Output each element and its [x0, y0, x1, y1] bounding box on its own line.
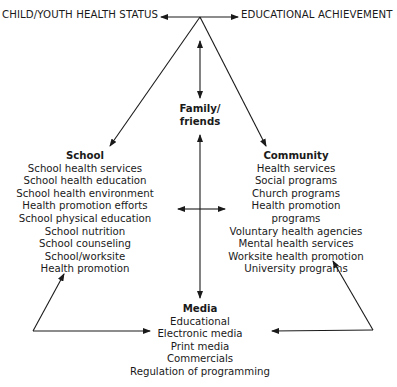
media-item: Electronic media: [130, 328, 270, 341]
media-item: Regulation of programming: [130, 366, 270, 379]
school-item: School health environment: [15, 188, 155, 201]
family-line2: friends: [170, 116, 230, 129]
media-node: Media Educational Electronic media Print…: [130, 303, 270, 379]
community-item: Social programs: [226, 175, 366, 188]
school-item: School health services: [15, 163, 155, 176]
community-item: Worksite health promotion: [226, 251, 366, 264]
media-item: Print media: [130, 341, 270, 354]
community-node: Community Health services Social program…: [226, 150, 366, 276]
community-item: Health promotion programs: [226, 200, 366, 225]
family-friends-node: Family/ friends: [170, 103, 230, 128]
community-item: Health services: [226, 163, 366, 176]
media-title: Media: [130, 303, 270, 316]
school-item: School counseling: [15, 238, 155, 251]
community-title: Community: [226, 150, 366, 163]
bl-up-arrow: [33, 274, 64, 331]
school-node: School School health services School hea…: [15, 150, 155, 276]
school-item: School health education: [15, 175, 155, 188]
family-line1: Family/: [170, 103, 230, 116]
media-item: Educational: [130, 316, 270, 329]
educational-achievement-label: EDUCATIONAL ACHIEVEMENT: [241, 9, 393, 20]
school-item: Health promotion: [15, 263, 155, 276]
community-item: Mental health services: [226, 238, 366, 251]
school-item: Health promotion efforts: [15, 200, 155, 213]
br-left-arrow: [272, 330, 373, 331]
school-title: School: [15, 150, 155, 163]
child-youth-health-status-label: CHILD/YOUTH HEALTH STATUS: [2, 9, 158, 20]
community-item: Church programs: [226, 188, 366, 201]
school-item: School/worksite: [15, 251, 155, 264]
school-item: School physical education: [15, 213, 155, 226]
community-item: University programs: [226, 263, 366, 276]
media-item: Commercials: [130, 353, 270, 366]
school-item: School nutrition: [15, 226, 155, 239]
community-item: Voluntary health agencies: [226, 226, 366, 239]
